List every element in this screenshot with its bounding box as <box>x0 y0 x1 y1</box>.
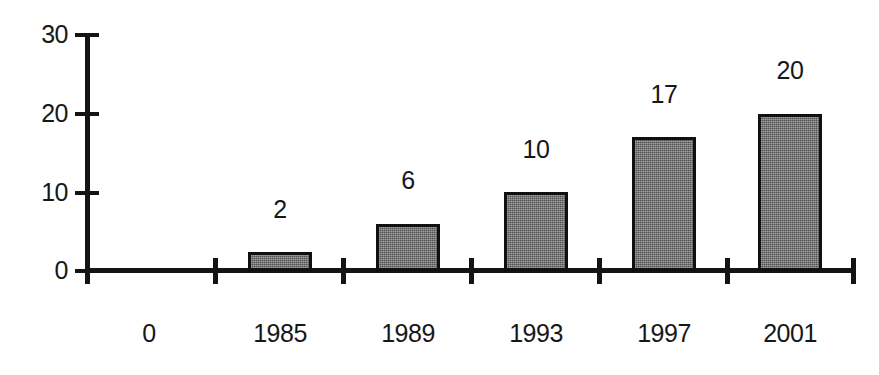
y-axis-tick-30 <box>75 33 99 37</box>
bar-chart: 30 20 10 0 2 6 10 17 20 0 1985 1989 1993… <box>0 0 879 375</box>
y-axis-tick-10 <box>75 191 99 195</box>
x-axis-tick-0 <box>85 258 90 284</box>
x-axis-label-1997: 1997 <box>621 320 707 346</box>
bar-1985 <box>248 252 312 271</box>
y-axis-line <box>85 33 90 274</box>
x-axis-tick-3 <box>469 258 474 284</box>
bar-1993 <box>504 192 568 271</box>
bar-value-label-1989: 6 <box>376 167 440 193</box>
x-axis-label-0: 0 <box>117 320 181 346</box>
x-axis-label-1985: 1985 <box>237 320 323 346</box>
y-axis-tick-label-0: 0 <box>8 258 68 283</box>
x-axis-tick-5 <box>725 258 730 284</box>
bar-value-label-2001: 20 <box>758 57 822 83</box>
bar-1989 <box>376 224 440 271</box>
x-axis-tick-6 <box>851 258 856 284</box>
y-axis-tick-20 <box>75 112 99 116</box>
x-axis-tick-1 <box>213 258 218 284</box>
x-axis-label-1993: 1993 <box>493 320 579 346</box>
x-axis-label-1989: 1989 <box>365 320 451 346</box>
x-axis-tick-2 <box>341 258 346 284</box>
bar-value-label-1993: 10 <box>504 136 568 162</box>
y-axis-tick-label-20: 20 <box>8 101 68 126</box>
y-axis-tick-label-10: 10 <box>8 180 68 205</box>
bar-2001 <box>758 114 822 271</box>
bar-1997 <box>632 137 696 271</box>
bar-value-label-1997: 17 <box>632 81 696 107</box>
y-axis-tick-label-30: 30 <box>8 22 68 47</box>
bar-value-label-1985: 2 <box>248 196 312 222</box>
x-axis-label-2001: 2001 <box>747 320 833 346</box>
x-axis-tick-4 <box>597 258 602 284</box>
